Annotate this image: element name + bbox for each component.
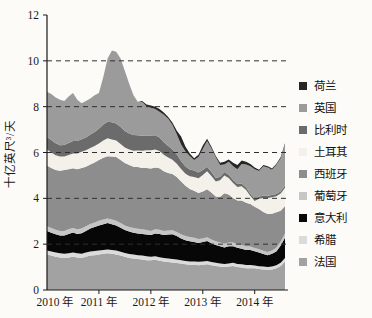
legend-swatch-uk <box>299 104 307 112</box>
legend-swatch-portugal <box>299 192 307 200</box>
legend-swatch-spain <box>299 170 307 178</box>
x-tick-label: 2011 年 <box>81 295 117 308</box>
y-axis-title: 十亿英尺³/天 <box>1 99 17 209</box>
legend-item-france: 法国 <box>299 256 371 268</box>
legend-swatch-belgium <box>299 126 307 134</box>
legend-item-portugal: 葡萄牙 <box>299 190 371 202</box>
y-tick-label: 12 <box>28 9 40 21</box>
y-tick-label: 4 <box>33 192 39 204</box>
legend-item-greece: 希腊 <box>299 234 371 246</box>
legend-label-france: 法国 <box>314 256 336 268</box>
legend-swatch-france <box>299 258 307 266</box>
legend-label-portugal: 葡萄牙 <box>314 190 347 202</box>
legend-item-uk: 英国 <box>299 102 371 114</box>
legend-swatch-greece <box>299 236 307 244</box>
legend-swatch-netherlands <box>299 82 307 90</box>
x-tick-label: 2010 年 <box>37 295 74 308</box>
legend-item-belgium: 比利时 <box>299 124 371 136</box>
legend-swatch-italy <box>299 214 307 222</box>
y-tick-label: 8 <box>33 101 39 113</box>
y-tick-label: 10 <box>28 55 40 67</box>
legend-label-uk: 英国 <box>314 102 336 114</box>
legend-label-italy: 意大利 <box>314 212 347 224</box>
legend-label-netherlands: 荷兰 <box>314 80 336 92</box>
legend-item-spain: 西班牙 <box>299 168 371 180</box>
legend-item-netherlands: 荷兰 <box>299 80 371 92</box>
legend-swatch-turkey <box>299 148 307 156</box>
x-tick-label: 2014 年 <box>236 295 273 308</box>
legend-label-greece: 希腊 <box>314 234 336 246</box>
legend-label-belgium: 比利时 <box>314 124 347 136</box>
y-tick-label: 6 <box>33 147 39 159</box>
legend-label-turkey: 土耳其 <box>314 146 347 158</box>
legend-label-spain: 西班牙 <box>314 168 347 180</box>
figure: 0246810122010 年2011 年2012 年2013 年2014 年 … <box>0 0 372 318</box>
y-tick-label: 0 <box>33 284 39 296</box>
x-tick-label: 2012 年 <box>132 295 169 308</box>
chart-legend: 荷兰英国比利时土耳其西班牙葡萄牙意大利希腊法国 <box>299 80 371 268</box>
legend-item-turkey: 土耳其 <box>299 146 371 158</box>
y-tick-label: 2 <box>33 238 39 250</box>
x-tick-label: 2013 年 <box>184 295 221 308</box>
legend-item-italy: 意大利 <box>299 212 371 224</box>
